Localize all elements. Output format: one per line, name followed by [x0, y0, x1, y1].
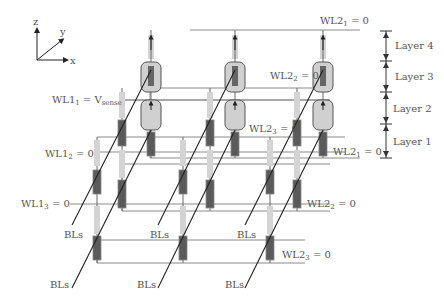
- axes-indicator: z y x: [33, 16, 76, 66]
- bl-label-4: BLs: [50, 279, 69, 290]
- bl-labels: BLs BLs BLs BLs BLs BLs: [50, 229, 256, 290]
- layer-4-label: Layer 4: [395, 40, 434, 51]
- pillars: [93, 30, 333, 263]
- layer-3-label: Layer 3: [395, 71, 434, 82]
- pillar-mid-2: [206, 88, 214, 211]
- wl2-3-bottom-label: WL23 = 0: [282, 249, 331, 262]
- pillar-back-1: [141, 30, 161, 158]
- bl-label-5: BLs: [137, 279, 156, 290]
- wl1-3-label: WL13 = 0: [21, 198, 70, 211]
- wl2-1-top-label: WL21 = 0: [320, 15, 369, 28]
- bl-label-3: BLs: [237, 229, 256, 240]
- wl2-2-upper-label: WL22 = 0: [270, 70, 319, 83]
- layer-2-label: Layer 2: [393, 103, 432, 114]
- wl1-2-label: WL12 = 0: [45, 148, 94, 161]
- vertical-memory-array-diagram: z y x: [0, 0, 444, 304]
- wl2-2-lower-label: WL22 = 0: [307, 198, 356, 211]
- pillar-back-2: [225, 30, 245, 158]
- bl-label-6: BLs: [225, 279, 244, 290]
- pillar-front-2: [179, 137, 187, 263]
- wl2-1-right-label: WL21 = 0: [333, 146, 382, 159]
- layer-1-label: Layer 1: [393, 136, 432, 147]
- wl1-1-label: WL11 = Vsense: [52, 94, 122, 107]
- layer-scale: Layer 4 Layer 3 Layer 2 Layer 1: [380, 31, 434, 158]
- axis-x-label: x: [70, 55, 76, 66]
- bl-label-2: BLs: [150, 229, 169, 240]
- pillar-back-3: [313, 30, 333, 158]
- axis-z-label: z: [33, 16, 38, 27]
- axis-y-label: y: [59, 26, 66, 37]
- pillar-mid-3: [293, 88, 301, 211]
- bl-label-1: BLs: [64, 229, 83, 240]
